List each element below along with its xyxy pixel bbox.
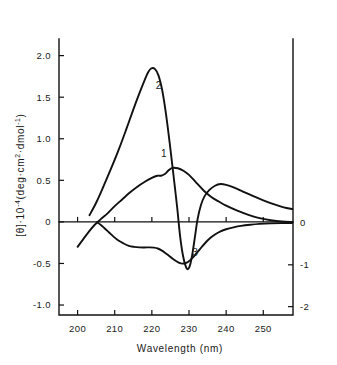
curve-label-3: 3 bbox=[192, 247, 198, 258]
x-tick-label: 250 bbox=[255, 323, 272, 334]
curve-1 bbox=[78, 168, 293, 247]
y-axis-right-tick-labels: -2-10 bbox=[300, 217, 309, 312]
y-tick-label-left: 0.5 bbox=[37, 175, 51, 186]
y-tick-label-left: 1.0 bbox=[37, 133, 51, 144]
y-axis-title: [θ]·10-4(deg·cm2·dmol-1) bbox=[14, 113, 26, 236]
x-tick-label: 230 bbox=[180, 323, 197, 334]
curve-label-1: 1 bbox=[161, 148, 167, 159]
y-axis-left-ticks bbox=[59, 56, 64, 305]
zero-baseline-ticks bbox=[78, 217, 264, 222]
curve-labels: 123 bbox=[156, 80, 198, 259]
data-curves bbox=[78, 68, 293, 269]
y-axis-right-ticks bbox=[288, 265, 293, 307]
cd-spectrum-figure: -1.0-0.500.51.01.52.0 -2-10 200210220230… bbox=[0, 0, 337, 365]
x-tick-label: 240 bbox=[218, 323, 235, 334]
x-axis-title: Wavelength (nm) bbox=[137, 343, 223, 354]
plot-frame bbox=[59, 39, 293, 315]
y-axis-left-tick-labels: -1.0-0.500.51.01.52.0 bbox=[33, 50, 51, 310]
y-tick-label-left: 0 bbox=[45, 216, 51, 227]
x-axis-ticks bbox=[78, 310, 264, 315]
y-tick-label-left: 2.0 bbox=[37, 50, 51, 61]
x-tick-label: 220 bbox=[143, 323, 160, 334]
y-tick-label-left: -1.0 bbox=[33, 299, 51, 310]
y-axis-title-text: [θ]·10-4(deg·cm2·dmol-1) bbox=[14, 113, 26, 236]
y-tick-label-left: 1.5 bbox=[37, 92, 51, 103]
x-tick-label: 210 bbox=[106, 323, 123, 334]
curve-label-2: 2 bbox=[156, 80, 162, 91]
y-tick-label-left: -0.5 bbox=[33, 258, 51, 269]
x-axis-tick-labels: 200210220230240250 bbox=[69, 323, 272, 334]
x-tick-label: 200 bbox=[69, 323, 86, 334]
y-tick-label-right: -2 bbox=[300, 301, 309, 312]
chart-canvas: -1.0-0.500.51.01.52.0 -2-10 200210220230… bbox=[0, 0, 337, 365]
y-tick-label-right: 0 bbox=[300, 217, 306, 228]
y-tick-label-right: -1 bbox=[300, 259, 309, 270]
curve-2 bbox=[89, 68, 292, 269]
